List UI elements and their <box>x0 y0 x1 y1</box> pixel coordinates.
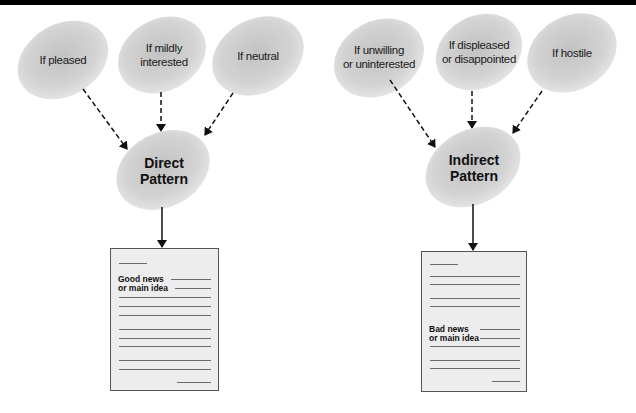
doc-line <box>480 338 520 339</box>
svg-text:or uninterested: or uninterested <box>343 58 415 70</box>
doc-line <box>119 360 211 361</box>
doc-line <box>119 263 147 264</box>
doc-line <box>119 338 211 339</box>
direct-document: Good news or main idea <box>110 248 219 391</box>
svg-text:interested: interested <box>140 56 188 68</box>
dashed-arrow-pleased-to-direct <box>83 89 127 149</box>
svg-text:If mildly: If mildly <box>146 42 183 54</box>
svg-text:If hostile: If hostile <box>552 47 592 59</box>
reaction-ellipse-if-mildly-interested: If mildly interested <box>104 2 219 109</box>
doc-line <box>430 346 520 347</box>
direct-pattern-ellipse: Direct Pattern <box>102 114 223 225</box>
doc-line <box>430 276 520 277</box>
doc-line <box>119 315 211 316</box>
doc-line <box>171 279 211 280</box>
svg-text:Pattern: Pattern <box>450 168 498 184</box>
doc-line <box>480 329 520 330</box>
doc-line <box>430 264 458 265</box>
dashed-arrow-neutral-to-direct <box>205 93 233 135</box>
reaction-ellipse-if-unwilling: If unwilling or uninterested <box>320 3 438 112</box>
doc-line <box>430 360 520 361</box>
doc-line <box>430 368 520 369</box>
doc-line <box>119 306 211 307</box>
svg-text:Direct: Direct <box>144 155 184 171</box>
reaction-ellipse-if-neutral: If neutral <box>198 1 318 111</box>
dashed-arrow-hostile-to-indirect <box>513 91 542 133</box>
reaction-ellipse-if-hostile: If hostile <box>513 0 631 109</box>
document-label-line2: or main idea <box>429 333 479 343</box>
diagram-canvas: If pleased If mildly interested If neutr… <box>0 0 636 413</box>
doc-line <box>430 298 520 299</box>
svg-text:If displeased: If displeased <box>449 39 510 51</box>
svg-text:If unwilling: If unwilling <box>354 44 404 56</box>
doc-line <box>119 369 211 370</box>
doc-line <box>177 382 211 383</box>
svg-text:Indirect: Indirect <box>449 152 500 168</box>
doc-line <box>175 288 211 289</box>
svg-text:If neutral: If neutral <box>237 50 279 62</box>
svg-text:If pleased: If pleased <box>40 54 87 66</box>
doc-line <box>492 381 520 382</box>
reaction-ellipse-if-displeased: If displeased or disappointed <box>422 0 535 105</box>
doc-line <box>430 284 520 285</box>
indirect-document: Bad news or main idea <box>421 251 527 392</box>
document-label-line2: or main idea <box>118 283 168 293</box>
reaction-ellipse-if-pleased: If pleased <box>3 5 122 115</box>
svg-text:or disappointed: or disappointed <box>442 53 516 65</box>
doc-line <box>119 297 211 298</box>
svg-text:Pattern: Pattern <box>140 171 188 187</box>
doc-line <box>119 329 211 330</box>
dashed-arrow-unwilling-to-indirect <box>390 80 435 147</box>
doc-line <box>119 346 211 347</box>
doc-line <box>430 306 520 307</box>
